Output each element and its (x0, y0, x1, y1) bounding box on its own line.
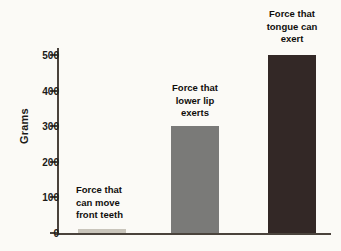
bar-force-front-teeth (78, 229, 126, 233)
y-tick-label: 100 (17, 192, 59, 203)
bar-force-tongue (268, 55, 316, 233)
y-tick-label: 0 (17, 228, 59, 239)
y-tick-label: 200 (17, 156, 59, 167)
bar-label-force-lower-lip: Force that lower lip exerts (150, 82, 240, 120)
bar-label-force-front-teeth: Force that can move front teeth (76, 184, 156, 222)
bar-chart: Grams 0100200300400500 Force that can mo… (0, 0, 341, 251)
y-tick-label: 500 (17, 50, 59, 61)
bar-label-force-tongue: Force that tongue can exert (246, 8, 338, 46)
y-tick-label: 400 (17, 85, 59, 96)
bar-force-lower-lip (171, 126, 219, 233)
y-tick-label: 300 (17, 121, 59, 132)
x-axis-line (55, 233, 331, 235)
y-axis-line (57, 48, 59, 234)
